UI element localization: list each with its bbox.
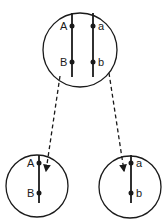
locus-dot-B [70,60,75,65]
locus-label-A: A [27,157,35,169]
locus-label-b: b [136,187,142,199]
daughter-cell-left: A B [6,155,68,217]
locus-label-a: a [136,157,143,169]
locus-label-A: A [60,20,68,32]
locus-label-b: b [98,56,104,68]
parent-cell: A B a b [43,13,117,87]
locus-dot-a [91,24,96,29]
locus-label-B: B [60,56,67,68]
chromosome-left: A B [60,13,75,77]
chromosome-right: a b [91,13,106,77]
locus-label-a: a [98,20,105,32]
locus-dot-a [129,161,134,166]
locus-dot-b [91,60,96,65]
locus-dot-b [129,191,134,196]
locus-dot-B [37,191,42,196]
cell-division-diagram: A B a b A B a b [0,0,162,221]
daughter-cell-right: a b [99,155,161,218]
locus-label-B: B [27,187,34,199]
locus-dot-A [70,24,75,29]
locus-dot-A [37,161,42,166]
arrow-to-right-cell [109,73,124,171]
